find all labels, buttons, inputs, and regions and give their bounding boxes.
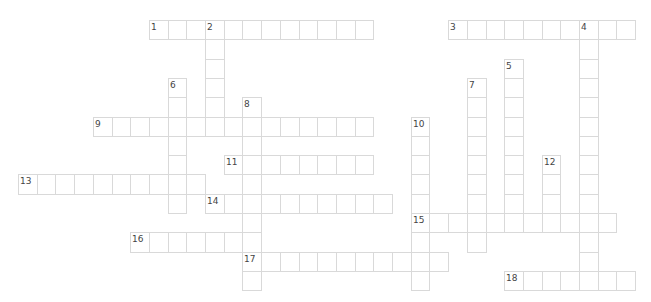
crossword-cell[interactable]: [168, 155, 187, 175]
crossword-cell[interactable]: [242, 174, 262, 195]
crossword-cell[interactable]: [560, 213, 580, 233]
crossword-cell[interactable]: [317, 20, 337, 40]
crossword-cell[interactable]: [224, 232, 243, 253]
crossword-cell[interactable]: [598, 20, 617, 40]
crossword-cell[interactable]: [93, 174, 113, 195]
crossword-cell[interactable]: [168, 194, 187, 214]
crossword-cell[interactable]: [242, 20, 262, 40]
crossword-cell[interactable]: [504, 213, 524, 233]
crossword-cell[interactable]: [467, 117, 487, 137]
crossword-cell[interactable]: [205, 59, 225, 79]
crossword-cell[interactable]: [299, 155, 318, 175]
crossword-cell[interactable]: [616, 20, 636, 40]
crossword-cell[interactable]: [411, 232, 430, 253]
crossword-cell[interactable]: [336, 117, 356, 137]
crossword-cell[interactable]: [299, 20, 318, 40]
crossword-cell[interactable]: [112, 117, 131, 137]
crossword-cell[interactable]: 1: [149, 20, 169, 40]
crossword-cell[interactable]: [168, 117, 187, 137]
crossword-cell[interactable]: [186, 174, 206, 195]
crossword-cell[interactable]: [224, 117, 243, 137]
crossword-cell[interactable]: [336, 252, 356, 272]
crossword-cell[interactable]: 4: [579, 20, 599, 40]
crossword-cell[interactable]: 3: [448, 20, 468, 40]
crossword-cell[interactable]: [149, 232, 169, 253]
crossword-cell[interactable]: [504, 155, 524, 175]
crossword-cell[interactable]: [261, 155, 281, 175]
crossword-cell[interactable]: [467, 194, 487, 214]
crossword-cell[interactable]: [560, 271, 580, 291]
crossword-cell[interactable]: [467, 232, 487, 253]
crossword-cell[interactable]: [355, 252, 374, 272]
crossword-cell[interactable]: [579, 39, 599, 60]
crossword-cell[interactable]: [74, 174, 94, 195]
crossword-cell[interactable]: [205, 39, 225, 60]
crossword-cell[interactable]: [224, 20, 243, 40]
crossword-cell[interactable]: [598, 271, 617, 291]
crossword-cell[interactable]: [205, 117, 225, 137]
crossword-cell[interactable]: [579, 155, 599, 175]
crossword-cell[interactable]: [486, 213, 505, 233]
crossword-cell[interactable]: [579, 136, 599, 156]
crossword-cell[interactable]: [205, 78, 225, 98]
crossword-cell[interactable]: [392, 252, 412, 272]
crossword-cell[interactable]: [336, 194, 356, 214]
crossword-cell[interactable]: [411, 136, 430, 156]
crossword-cell[interactable]: [336, 20, 356, 40]
crossword-cell[interactable]: [429, 213, 449, 233]
crossword-cell[interactable]: [373, 194, 393, 214]
crossword-cell[interactable]: [504, 20, 524, 40]
crossword-cell[interactable]: [205, 232, 225, 253]
crossword-cell[interactable]: 12: [542, 155, 561, 175]
crossword-cell[interactable]: [168, 97, 187, 118]
crossword-cell[interactable]: [579, 78, 599, 98]
crossword-cell[interactable]: [560, 20, 580, 40]
crossword-cell[interactable]: [280, 155, 300, 175]
crossword-cell[interactable]: [467, 213, 487, 233]
crossword-cell[interactable]: [579, 213, 599, 233]
crossword-cell[interactable]: [130, 117, 150, 137]
crossword-cell[interactable]: [242, 155, 262, 175]
crossword-cell[interactable]: 15: [411, 213, 430, 233]
crossword-cell[interactable]: [355, 155, 374, 175]
crossword-cell[interactable]: 18: [504, 271, 524, 291]
crossword-cell[interactable]: [355, 117, 374, 137]
crossword-cell[interactable]: [261, 20, 281, 40]
crossword-cell[interactable]: [317, 252, 337, 272]
crossword-cell[interactable]: [467, 20, 487, 40]
crossword-cell[interactable]: [504, 136, 524, 156]
crossword-cell[interactable]: [317, 117, 337, 137]
crossword-cell[interactable]: [448, 213, 468, 233]
crossword-cell[interactable]: [542, 271, 561, 291]
crossword-cell[interactable]: [224, 194, 243, 214]
crossword-cell[interactable]: [242, 136, 262, 156]
crossword-cell[interactable]: [242, 117, 262, 137]
crossword-cell[interactable]: [579, 232, 599, 253]
crossword-cell[interactable]: [112, 174, 131, 195]
crossword-cell[interactable]: [467, 174, 487, 195]
crossword-cell[interactable]: [542, 194, 561, 214]
crossword-cell[interactable]: [242, 213, 262, 233]
crossword-cell[interactable]: 7: [467, 78, 487, 98]
crossword-cell[interactable]: [411, 194, 430, 214]
crossword-cell[interactable]: [336, 155, 356, 175]
crossword-cell[interactable]: [242, 194, 262, 214]
crossword-cell[interactable]: [280, 194, 300, 214]
crossword-cell[interactable]: [280, 117, 300, 137]
crossword-cell[interactable]: 11: [224, 155, 243, 175]
crossword-cell[interactable]: [504, 194, 524, 214]
crossword-cell[interactable]: [504, 117, 524, 137]
crossword-cell[interactable]: [261, 117, 281, 137]
crossword-cell[interactable]: [186, 232, 206, 253]
crossword-cell[interactable]: [186, 117, 206, 137]
crossword-cell[interactable]: [523, 20, 543, 40]
crossword-cell[interactable]: 16: [130, 232, 150, 253]
crossword-cell[interactable]: [299, 194, 318, 214]
crossword-cell[interactable]: [411, 252, 430, 272]
crossword-cell[interactable]: [411, 174, 430, 195]
crossword-cell[interactable]: [504, 174, 524, 195]
crossword-cell[interactable]: [168, 232, 187, 253]
crossword-cell[interactable]: [299, 252, 318, 272]
crossword-cell[interactable]: [579, 252, 599, 272]
crossword-cell[interactable]: [280, 252, 300, 272]
